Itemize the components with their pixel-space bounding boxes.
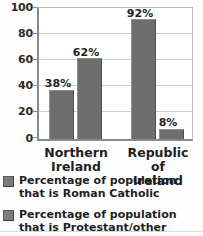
legend-item-roman-catholic: Percentage of population that is Roman C… [0, 174, 203, 201]
legend: Percentage of population that is Roman C… [0, 174, 203, 236]
legend-color-swatch-icon [3, 210, 14, 221]
y-axis-tick-label-0: 0 [3, 133, 33, 144]
y-axis-tick-label-80: 80 [3, 28, 33, 39]
bar-value-label-62: 62% [66, 47, 106, 58]
y-axis-tick-label-60: 60 [3, 54, 33, 65]
y-axis-tick-label-20: 20 [3, 106, 33, 117]
x-axis-category-label-northern-ireland: Northern Ireland [37, 146, 115, 174]
plot-region: 100 80 60 40 20 0 38% 62% 92% 8% [0, 0, 203, 146]
bar-value-label-38: 38% [38, 78, 78, 89]
bar-value-label-8: 8% [148, 117, 188, 128]
gridline-80 [39, 33, 192, 34]
bar-northern-ireland-protestant-other [77, 58, 102, 139]
legend-color-swatch-icon [3, 176, 14, 187]
bar-republic-of-ireland-protestant-other [159, 129, 184, 139]
bar-value-label-92: 92% [120, 8, 160, 19]
legend-item-label: Percentage of population that is Roman C… [19, 174, 177, 201]
y-axis-tick-label-100: 100 [3, 2, 33, 13]
bar-northern-ireland-roman-catholic [49, 90, 74, 139]
y-axis-tick-label-40: 40 [3, 80, 33, 91]
bottom-divider [0, 231, 203, 232]
gridline-60 [39, 59, 192, 60]
bar-chart-figure: 100 80 60 40 20 0 38% 62% 92% 8% [0, 0, 203, 236]
